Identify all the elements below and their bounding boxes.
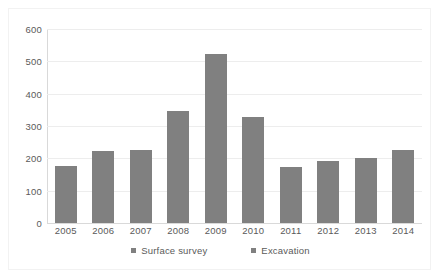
legend-swatch-icon [251,248,256,253]
y-tick-label-400: 400 [12,88,42,99]
bar-slot-2008 [160,29,198,223]
bar-slot-2006 [85,29,123,223]
legend-label: Surface survey [141,245,207,256]
bar-2005[interactable] [55,166,77,223]
bar-slot-2005 [47,29,85,223]
y-tick-label-300: 300 [12,121,42,132]
y-tick-label-500: 500 [12,56,42,67]
chart-legend: Surface surveyExcavation [9,245,432,256]
bar-2013[interactable] [355,158,377,223]
bar-slot-2014 [385,29,423,223]
x-tick-label-2007: 2007 [130,225,152,236]
y-tick-label-0: 0 [12,218,42,229]
bar-slot-2013 [347,29,385,223]
bar-slot-2010 [235,29,273,223]
y-tick-label-600: 600 [12,24,42,35]
x-tick-label-2005: 2005 [55,225,77,236]
legend-label: Excavation [261,245,309,256]
bar-2011[interactable] [280,167,302,223]
x-tick-label-2009: 2009 [205,225,227,236]
legend-item-1[interactable]: Surface survey [131,245,207,256]
x-tick-label-2006: 2006 [92,225,114,236]
bar-2010[interactable] [242,117,264,223]
bar-slot-2012 [310,29,348,223]
y-tick-label-100: 100 [12,185,42,196]
x-axis-tick-labels: 2005200620072008200920102011201220132014 [47,225,422,241]
bar-slot-2011 [272,29,310,223]
y-axis-tick-labels: 0100200300400500600 [9,29,42,223]
x-tick-label-2010: 2010 [242,225,264,236]
plot-area [47,29,422,223]
bar-series-surface-survey [47,29,422,223]
bar-2007[interactable] [130,150,152,223]
legend-swatch-icon [131,248,136,253]
x-tick-label-2012: 2012 [317,225,339,236]
bar-slot-2009 [197,29,235,223]
bar-2014[interactable] [392,150,414,223]
x-tick-label-2013: 2013 [355,225,377,236]
gridline-0 [47,223,422,224]
bar-2008[interactable] [167,111,189,223]
y-tick-label-200: 200 [12,153,42,164]
legend-item-2[interactable]: Excavation [251,245,309,256]
bar-2012[interactable] [317,161,339,223]
bar-2009[interactable] [205,54,227,223]
bar-slot-2007 [122,29,160,223]
x-tick-label-2011: 2011 [280,225,301,236]
bar-2006[interactable] [92,151,114,223]
chart-container: 0100200300400500600 20052006200720082009… [8,8,431,270]
x-tick-label-2014: 2014 [392,225,414,236]
x-tick-label-2008: 2008 [167,225,189,236]
